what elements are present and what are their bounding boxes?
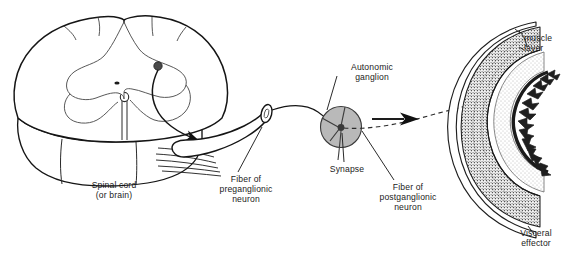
spinal-cord-structure [14,16,227,186]
label-spinal-cord: Spinal cord (or brain) [62,180,166,200]
visceral-effector-organ [448,22,560,238]
postganglionic-neuron-cell-body [338,124,345,131]
preganglionic-neuron-cell-body [154,62,162,70]
autonomic-pathway-figure: Spinal cord (or brain) Fiber of pregangl… [0,0,570,266]
label-preganglionic-fiber: Fiber of preganglionic neuron [196,174,296,205]
commissure-marker [114,82,119,85]
label-synapse: Synapse [316,164,378,174]
autonomic-ganglion [321,107,362,161]
diagram-canvas [0,0,570,266]
label-visceral-effector: Visceral effector [505,228,567,248]
label-autonomic-ganglion: Autonomic ganglion [330,62,414,82]
label-postganglionic-fiber: Fiber of postganglionic neuron [358,182,458,213]
label-muscle-layer: muscle layer [524,33,568,53]
